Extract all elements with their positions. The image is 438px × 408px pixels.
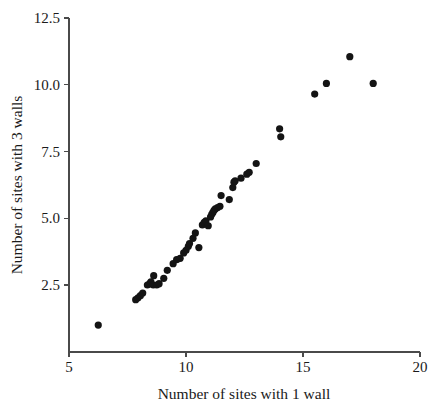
data-point xyxy=(160,275,167,282)
data-point xyxy=(311,90,318,97)
axes-group xyxy=(69,18,420,352)
data-point xyxy=(226,196,233,203)
data-point xyxy=(277,133,284,140)
y-tick-label: 7.5 xyxy=(41,144,60,160)
data-point xyxy=(205,222,212,229)
data-point xyxy=(218,192,225,199)
x-tick-label: 5 xyxy=(65,359,73,375)
data-point xyxy=(346,53,353,60)
data-point xyxy=(164,267,171,274)
y-tick-label: 10.0 xyxy=(34,77,60,93)
data-point xyxy=(139,289,146,296)
data-point xyxy=(253,160,260,167)
y-axis-title: Number of sites with 3 walls xyxy=(8,96,25,275)
data-points-layer xyxy=(95,53,377,329)
y-tick-label: 2.5 xyxy=(41,277,60,293)
data-point xyxy=(195,244,202,251)
data-point xyxy=(95,321,102,328)
data-point xyxy=(323,80,330,87)
x-tick-label: 10 xyxy=(179,359,194,375)
y-tick-label: 5.0 xyxy=(41,210,60,226)
data-point xyxy=(246,169,253,176)
plot-canvas: 2.55.07.510.012.5 5101520 Number of site… xyxy=(0,0,438,408)
x-tick-label: 20 xyxy=(413,359,428,375)
x-axis-ticks: 5101520 xyxy=(65,352,427,375)
scatter-plot-figure: 2.55.07.510.012.5 5101520 Number of site… xyxy=(0,0,438,408)
x-axis-title: Number of sites with 1 wall xyxy=(158,385,331,402)
data-point xyxy=(237,175,244,182)
data-point xyxy=(192,229,199,236)
x-tick-label: 15 xyxy=(296,359,311,375)
y-tick-label: 12.5 xyxy=(34,10,60,26)
data-point xyxy=(216,203,223,210)
data-point xyxy=(276,125,283,132)
y-axis-ticks: 2.55.07.510.012.5 xyxy=(34,10,69,293)
data-point xyxy=(370,80,377,87)
data-point xyxy=(150,272,157,279)
